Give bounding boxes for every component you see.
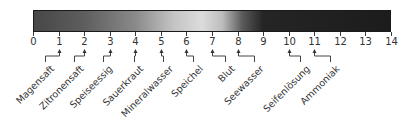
connector-line — [75, 52, 85, 62]
connector-line — [162, 52, 164, 62]
arrow-up-icon — [313, 49, 317, 53]
connector-line — [187, 52, 194, 62]
connector-line — [104, 52, 111, 62]
arrow-up-icon — [58, 49, 62, 53]
connector-line — [213, 52, 226, 62]
connector-line — [46, 52, 60, 62]
connector-line — [135, 52, 136, 62]
connector-line — [315, 52, 331, 62]
arrow-up-icon — [185, 49, 189, 53]
connector-line — [239, 52, 255, 62]
arrow-up-icon — [211, 49, 215, 53]
arrow-up-icon — [109, 49, 113, 53]
ph-scale-diagram: 01234567891011121314 MagensaftZitronensa… — [0, 0, 404, 121]
sample-connectors — [0, 0, 404, 121]
arrow-up-icon — [237, 49, 241, 53]
arrow-up-icon — [288, 49, 292, 53]
arrow-up-icon — [83, 49, 87, 53]
arrow-up-icon — [160, 49, 164, 53]
arrow-up-icon — [134, 49, 138, 53]
connector-line — [290, 52, 301, 62]
